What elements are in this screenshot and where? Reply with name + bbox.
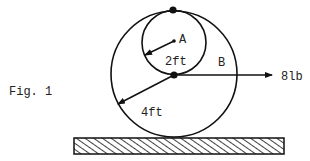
label-b: B bbox=[218, 56, 225, 70]
center-point-a bbox=[172, 39, 176, 43]
center-point-b bbox=[170, 71, 177, 78]
top-contact-point bbox=[169, 6, 176, 13]
label-inner-radius: 2ft bbox=[165, 55, 187, 69]
ground-surface bbox=[74, 138, 284, 154]
physics-diagram: Fig. 1 A 2ft B 8lb 4ft bbox=[0, 0, 310, 161]
outer-radius-arrow bbox=[118, 75, 174, 104]
label-outer-radius: 4ft bbox=[141, 106, 163, 120]
figure-caption: Fig. 1 bbox=[9, 85, 52, 99]
label-a: A bbox=[179, 33, 187, 47]
label-force: 8lb bbox=[281, 70, 303, 84]
inner-radius-arrow bbox=[145, 41, 174, 55]
